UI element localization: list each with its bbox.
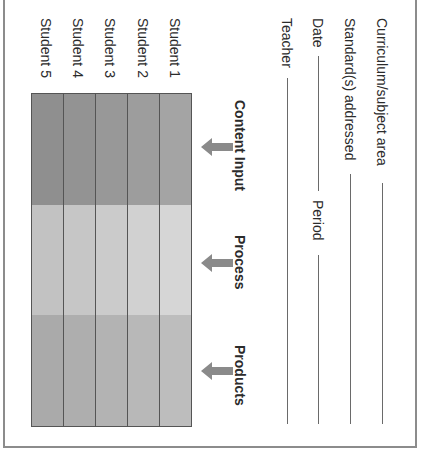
content-input-cell[interactable] [96, 94, 127, 205]
products-cell[interactable] [32, 315, 63, 426]
products-cell[interactable] [96, 315, 127, 426]
teacher-label: Teacher [279, 18, 295, 68]
student-label: Student 4 [70, 18, 86, 78]
products-cell[interactable] [128, 315, 159, 426]
arrow-left-icon [201, 362, 233, 380]
content-input-cell[interactable] [64, 94, 95, 205]
student-2-column [127, 94, 159, 426]
process-cell[interactable] [96, 205, 127, 316]
student-label: Student 3 [102, 18, 118, 78]
products-cell[interactable] [64, 315, 95, 426]
student-1-column [159, 94, 191, 426]
content-input-cell[interactable] [128, 94, 159, 205]
student-4-column [63, 94, 95, 426]
teacher-field[interactable] [287, 78, 288, 424]
arrow-left-icon [201, 254, 233, 272]
process-cell[interactable] [160, 205, 191, 316]
process-cell[interactable] [64, 205, 95, 316]
header-products: Products [232, 345, 248, 406]
process-cell[interactable] [128, 205, 159, 316]
header-process: Process [232, 235, 248, 289]
standards-field[interactable] [350, 174, 351, 424]
curriculum-label: Curriculum/subject area [374, 18, 390, 166]
student-label: Student 5 [38, 18, 54, 78]
header-content-input: Content Input [232, 100, 248, 191]
content-input-cell[interactable] [32, 94, 63, 205]
content-input-cell[interactable] [160, 94, 191, 205]
period-field[interactable] [318, 255, 319, 424]
date-field[interactable] [318, 56, 319, 191]
student-5-column [32, 94, 63, 426]
arrow-left-icon [201, 138, 233, 156]
student-grid [31, 93, 192, 427]
standards-label: Standard(s) addressed [342, 18, 358, 160]
period-label: Period [310, 200, 326, 240]
curriculum-field[interactable] [382, 183, 383, 424]
student-label: Student 2 [135, 18, 151, 78]
products-cell[interactable] [160, 315, 191, 426]
student-label: Student 1 [167, 18, 183, 78]
student-3-column [95, 94, 127, 426]
date-label: Date [310, 18, 326, 48]
process-cell[interactable] [32, 205, 63, 316]
